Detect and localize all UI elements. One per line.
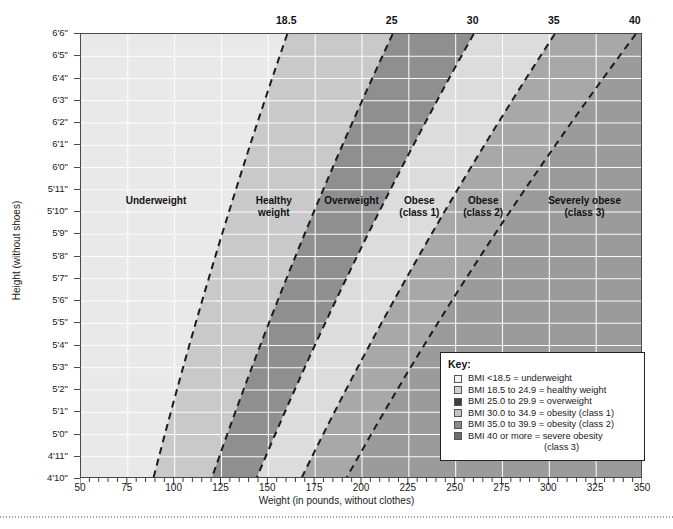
bmi-chart-figure: 18.5 25 30 35 40 6'6"6'5"6'4"6'3"6'2"6'1… <box>0 0 673 529</box>
x-axis-tick-label: 50 <box>60 482 100 493</box>
x-axis-tick-label: 300 <box>528 482 568 493</box>
top-axis-label-1: 25 <box>369 14 415 26</box>
x-axis-title: Weight (in pounds, without clothes) <box>0 495 673 506</box>
y-axis-tick-label: 5'9" <box>28 228 68 238</box>
legend-item: BMI 35.0 to 39.9 = obesity (class 2) <box>448 419 637 431</box>
y-axis-tick-label: 5'10" <box>28 206 68 216</box>
y-axis-tick-label: 5'4" <box>28 340 68 350</box>
y-axis-tick-label: 5'7" <box>28 273 68 283</box>
x-axis-tick-label: 175 <box>294 482 334 493</box>
legend-item: BMI 18.5 to 24.9 = healthy weight <box>448 385 637 397</box>
y-axis-title: Height (without shoes) <box>11 171 22 331</box>
legend-swatch-5 <box>454 421 462 429</box>
y-axis-tick-label: 5'11" <box>28 184 68 194</box>
legend-swatch-6 <box>454 432 462 440</box>
x-axis-tick-label: 350 <box>622 482 662 493</box>
y-axis-tick-label: 6'6" <box>28 28 68 38</box>
band-label-obese-class2: Obese (class 2) <box>431 195 535 219</box>
page-divider <box>0 516 673 518</box>
x-axis-tick-label: 100 <box>154 482 194 493</box>
legend-item-label: BMI 35.0 to 39.9 = obesity (class 2) <box>468 419 637 431</box>
legend-swatch-4 <box>454 409 462 417</box>
y-axis-tick-label: 4'11" <box>28 451 68 461</box>
legend-item-label: BMI 30.0 to 34.9 = obesity (class 1) <box>468 408 637 420</box>
legend-item-label: BMI <18.5 = underweight <box>468 373 637 385</box>
legend-item: BMI 25.0 to 29.9 = overweight <box>448 396 637 408</box>
y-axis-tick-label: 5'2" <box>28 384 68 394</box>
legend-title: Key: <box>448 358 637 370</box>
y-axis-tick-label: 5'1" <box>28 406 68 416</box>
y-axis-tick-label: 6'5" <box>28 50 68 60</box>
x-axis-tick-label: 250 <box>435 482 475 493</box>
y-axis-tick-label: 6'0" <box>28 162 68 172</box>
legend-item: BMI <18.5 = underweight <box>448 373 637 385</box>
y-axis-tick-label: 6'4" <box>28 73 68 83</box>
x-axis-tick-label: 75 <box>107 482 147 493</box>
y-axis-tick-label: 5'6" <box>28 295 68 305</box>
y-axis-tick-label: 6'1" <box>28 139 68 149</box>
legend-item-label: BMI 40 or more = severe obesity <box>468 431 637 443</box>
top-axis-label-3: 35 <box>531 14 577 26</box>
legend-item: BMI 30.0 to 34.9 = obesity (class 1) <box>448 408 637 420</box>
legend-swatch-1 <box>454 375 462 383</box>
legend-rows: BMI <18.5 = underweightBMI 18.5 to 24.9 … <box>448 373 637 442</box>
x-axis-tick-label: 275 <box>482 482 522 493</box>
band-label-underweight: Underweight <box>104 195 208 207</box>
top-axis-label-4: 40 <box>612 14 658 26</box>
legend-key: Key: BMI <18.5 = underweightBMI 18.5 to … <box>440 352 645 461</box>
y-axis-tick-label: 5'3" <box>28 362 68 372</box>
y-axis-tick-label: 5'5" <box>28 317 68 327</box>
top-axis-label-0: 18.5 <box>263 14 309 26</box>
x-axis-tick-label: 225 <box>388 482 428 493</box>
legend-swatch-3 <box>454 398 462 406</box>
y-axis-tick-label: 6'2" <box>28 117 68 127</box>
x-axis-tick-label: 150 <box>247 482 287 493</box>
y-axis-tick-label: 5'8" <box>28 251 68 261</box>
top-axis-label-2: 30 <box>450 14 496 26</box>
legend-swatch-2 <box>454 386 462 394</box>
legend-item-label: BMI 18.5 to 24.9 = healthy weight <box>468 385 637 397</box>
band-label-severely-obese: Severely obese (class 3) <box>533 195 637 219</box>
y-axis-tick-label: 6'3" <box>28 95 68 105</box>
x-axis-tick-label: 325 <box>575 482 615 493</box>
x-axis-tick-label: 200 <box>341 482 381 493</box>
y-axis-tick-label: 5'0" <box>28 429 68 439</box>
legend-item: BMI 40 or more = severe obesity <box>448 431 637 443</box>
x-axis-tick-label: 125 <box>201 482 241 493</box>
legend-item-label: BMI 25.0 to 29.9 = overweight <box>468 396 637 408</box>
legend-continuation: (class 3) <box>448 442 637 454</box>
